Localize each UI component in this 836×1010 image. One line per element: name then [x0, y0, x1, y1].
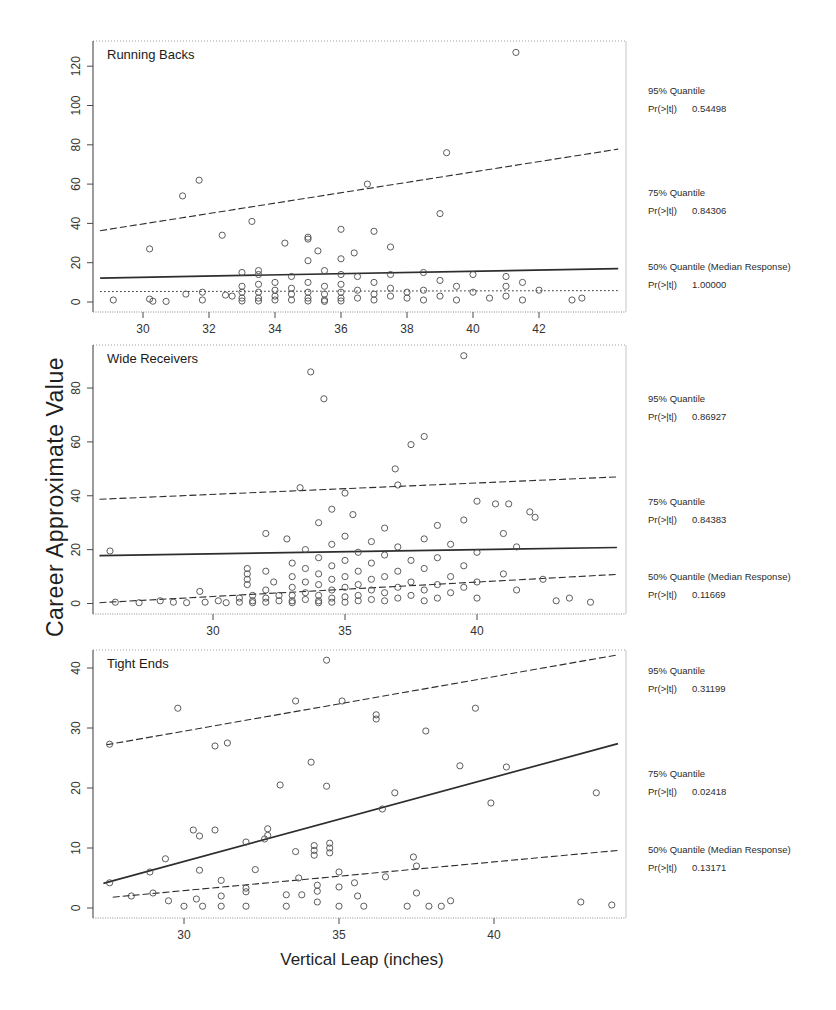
data-point [282, 240, 288, 246]
data-point [252, 867, 258, 873]
data-point [302, 596, 308, 602]
data-point [336, 884, 342, 890]
annotation-wide-receivers-95: 95% Quantile Pr(>|t|)0.86927 [648, 391, 726, 424]
data-point [239, 289, 245, 295]
data-point [437, 211, 443, 217]
data-point [265, 826, 271, 832]
pr-label: Pr(>|t|) [648, 587, 692, 602]
data-point [183, 291, 189, 297]
data-point [218, 877, 224, 883]
data-point [199, 297, 205, 303]
data-point [404, 289, 410, 295]
y-tick-label: 40 [69, 489, 83, 503]
quantile-label: 50% Quantile (Median Response) [648, 259, 791, 274]
data-point [457, 763, 463, 769]
quantile-line-95-quantile [99, 477, 616, 499]
data-point [513, 49, 519, 55]
data-point [289, 560, 295, 566]
data-point [316, 582, 322, 588]
data-point [421, 536, 427, 542]
data-point [553, 598, 559, 604]
pr-value: 0.31199 [692, 683, 726, 694]
data-point [472, 705, 478, 711]
data-point [392, 790, 398, 796]
data-point [336, 869, 342, 875]
y-tick-label: 10 [69, 841, 83, 855]
data-point [218, 893, 224, 899]
data-point [395, 482, 401, 488]
y-tick-label: 0 [69, 904, 83, 911]
y-tick-label: 20 [69, 781, 83, 795]
data-point [492, 501, 498, 507]
annotation-tight-ends-75: 75% Quantile Pr(>|t|)0.02418 [648, 766, 726, 799]
data-point [302, 565, 308, 571]
data-point [578, 899, 584, 905]
data-point [453, 297, 459, 303]
data-point [338, 256, 344, 262]
data-point [368, 576, 374, 582]
pr-value: 0.02418 [692, 786, 726, 797]
data-point [421, 433, 427, 439]
annotation-tight-ends-95: 95% Quantile Pr(>|t|)0.31199 [648, 663, 726, 696]
quantile-label: 50% Quantile (Median Response) [648, 842, 791, 857]
data-point [297, 485, 303, 491]
data-point [329, 541, 335, 547]
data-point [342, 557, 348, 563]
data-point [249, 218, 255, 224]
quantile-label: 75% Quantile [648, 766, 726, 781]
data-point [437, 277, 443, 283]
data-point [329, 599, 335, 605]
data-point [434, 555, 440, 561]
data-point [373, 716, 379, 722]
annotation-running-backs-95: 95% Quantile Pr(>|t|)0.54498 [648, 83, 726, 116]
data-point [289, 584, 295, 590]
annotation-running-backs-75: 75% Quantile Pr(>|t|)0.84306 [648, 185, 726, 218]
pr-value: 0.13171 [692, 862, 726, 873]
data-point [338, 281, 344, 287]
data-point [157, 598, 163, 604]
data-point [239, 283, 245, 289]
data-point [354, 287, 360, 293]
data-point [314, 882, 320, 888]
data-point [421, 598, 427, 604]
panel-running-backs: 30323436384042020406080100120Running Bac… [69, 41, 626, 336]
data-point [321, 291, 327, 297]
x-tick-label: 40 [466, 322, 480, 336]
data-point [299, 892, 305, 898]
data-point [382, 874, 388, 880]
data-point [342, 490, 348, 496]
data-point [434, 522, 440, 528]
data-point [288, 285, 294, 291]
data-point [503, 293, 509, 299]
data-point [107, 548, 113, 554]
data-point [527, 509, 533, 515]
data-point [180, 193, 186, 199]
data-point [532, 514, 538, 520]
data-point [342, 533, 348, 539]
data-point [420, 287, 426, 293]
data-point [474, 498, 480, 504]
data-point [408, 557, 414, 563]
data-point [587, 599, 593, 605]
data-point [453, 283, 459, 289]
data-point [263, 568, 269, 574]
data-point [569, 297, 575, 303]
data-point [395, 584, 401, 590]
data-point [382, 590, 388, 596]
data-point [368, 596, 374, 602]
data-point [338, 289, 344, 295]
data-point [410, 854, 416, 860]
y-tick-label: 0 [69, 298, 83, 305]
data-point [255, 281, 261, 287]
data-point [321, 298, 327, 304]
data-point [371, 279, 377, 285]
data-point [315, 248, 321, 254]
pr-label: Pr(>|t|) [648, 512, 692, 527]
x-tick-label: 36 [334, 322, 348, 336]
data-point [354, 295, 360, 301]
data-point [364, 181, 370, 187]
x-axis-label: Vertical Leap (inches) [280, 950, 443, 970]
data-point [500, 571, 506, 577]
data-point [413, 863, 419, 869]
data-point [293, 849, 299, 855]
